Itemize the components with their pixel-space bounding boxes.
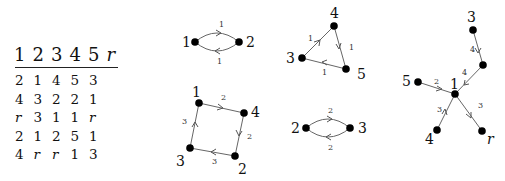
- node-label: 5: [357, 66, 366, 82]
- edge-label: 1: [308, 34, 313, 43]
- node-label: 4: [425, 131, 434, 147]
- node-label: 1: [192, 84, 201, 100]
- graph-3-4-5: 4 3 5 1 1 1: [286, 5, 366, 82]
- edge-label: 1: [322, 68, 327, 77]
- graph-star: 3 5 1 4 r 4 4 2 3 3: [402, 9, 495, 147]
- node-label: 5: [402, 73, 411, 89]
- edge-label: 2: [434, 77, 439, 86]
- node-label: 3: [286, 50, 295, 66]
- node-label: 1: [450, 76, 459, 92]
- node: [235, 38, 243, 46]
- node-label: r: [487, 131, 495, 147]
- graph-1-2: 1 2 1 1: [182, 20, 255, 66]
- graphs-canvas: 1 2 1 1 1 4 2 3 2 2 3 3 4: [0, 0, 505, 181]
- edge-label: 3: [212, 157, 217, 166]
- arrow-icon: [322, 60, 327, 65]
- node-label: 3: [176, 153, 185, 169]
- edge-label: 4: [470, 45, 475, 54]
- edge-label: 3: [478, 101, 483, 110]
- edge-label: 3: [437, 105, 442, 114]
- node-label: 3: [358, 120, 367, 136]
- edge-label: 2: [328, 143, 333, 152]
- edge-label: 3: [182, 117, 187, 126]
- edge-label: 1: [349, 43, 354, 52]
- edge-label: 2: [221, 93, 226, 102]
- node-label: 4: [251, 104, 260, 120]
- edge-label: 2: [328, 106, 333, 115]
- node-label: 3: [467, 9, 476, 25]
- graph-1-4-2-3: 1 4 2 3 2 2 3 3: [176, 84, 260, 177]
- node-label: 2: [238, 161, 247, 177]
- node-label: 4: [330, 5, 339, 21]
- edge-label: 4: [462, 68, 467, 77]
- node-label: 2: [291, 120, 300, 136]
- node-label: 2: [246, 34, 255, 50]
- node: [191, 38, 199, 46]
- edge-label: 2: [247, 132, 252, 141]
- graph-2-3: 2 3 2 2: [291, 106, 367, 152]
- arrow-icon: [236, 130, 242, 136]
- edge: [195, 33, 239, 42]
- node-label: 1: [182, 34, 191, 50]
- edge-label: 1: [217, 57, 222, 66]
- edge-label: 1: [219, 20, 224, 29]
